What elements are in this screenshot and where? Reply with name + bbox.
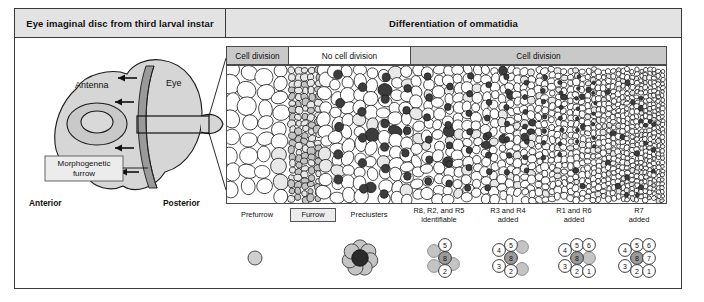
furrow-label-line1: Morphogenetic (58, 159, 111, 168)
cluster-diagram-row: 582 45832 4568321 45687321 (226, 231, 667, 287)
svg-text:2: 2 (635, 268, 639, 275)
stage-label-furrow: Furrow (290, 208, 336, 222)
cell-mosaic-panel (226, 65, 667, 204)
stage-label-text: Preclusters (338, 211, 400, 220)
cluster-r1-r6: 4568321 (554, 233, 604, 283)
stage-label-text: added (544, 216, 604, 225)
header-right-title: Differentiation of ommatidia (389, 18, 518, 29)
svg-text:8: 8 (635, 255, 639, 262)
eye-label: Eye (166, 78, 182, 88)
stage-label-text: identifiable (402, 216, 476, 225)
stage-label-text: added (614, 216, 664, 225)
svg-text:2: 2 (443, 268, 447, 275)
furrow-label-line2: furrow (73, 169, 95, 178)
svg-text:5: 5 (575, 242, 579, 249)
svg-text:1: 1 (647, 268, 651, 275)
svg-text:4: 4 (563, 247, 567, 254)
posterior-label: Posterior (163, 198, 201, 208)
band-label: Cell division (235, 51, 279, 61)
cluster-precluster-rosette (334, 233, 386, 283)
svg-text:1: 1 (587, 268, 591, 275)
figure-panel: Eye imaginal disc from third larval inst… (14, 8, 682, 289)
svg-text:5: 5 (443, 242, 447, 249)
cell-mosaic-drawing (227, 66, 666, 203)
svg-text:2: 2 (575, 268, 579, 275)
stage-label-r3-r4: R3 and R4 added (478, 207, 538, 224)
band-no-cell-division: No cell division (289, 47, 411, 64)
cluster-r7-a: 45687321 (614, 233, 664, 283)
header-left-title: Eye imaginal disc from third larval inst… (26, 18, 213, 29)
stage-label-row: Prefurrow Furrow Preclusters R8, R2, and… (226, 207, 667, 233)
header-right-cell: Differentiation of ommatidia (226, 9, 681, 37)
svg-text:4: 4 (497, 247, 501, 254)
figure-header: Eye imaginal disc from third larval inst… (15, 9, 681, 38)
eye-imaginal-disc-diagram: Antenna Eye Morphogenetic furrow Anterio… (15, 38, 226, 218)
stage-label-r1-r6: R1 and R6 added (544, 207, 604, 224)
stage-label-r8-r2-r5: R8, R2, and R5 identifiable (402, 207, 476, 224)
svg-text:3: 3 (497, 263, 501, 270)
svg-text:8: 8 (575, 255, 579, 262)
svg-text:7: 7 (647, 255, 651, 262)
division-band-strip: Cell division No cell division Cell divi… (226, 46, 667, 65)
optic-stalk (201, 114, 223, 133)
header-left-cell: Eye imaginal disc from third larval inst… (15, 9, 226, 37)
svg-text:2: 2 (509, 268, 513, 275)
stage-label-text: Prefurrow (226, 211, 288, 220)
stage-label-r7: R7 added (614, 207, 664, 224)
antenna-label: Antenna (75, 80, 109, 90)
stage-label-text: Furrow (291, 211, 335, 220)
band-label: No cell division (322, 51, 377, 61)
cluster-r3-r4: 45832 (488, 233, 534, 283)
svg-text:6: 6 (647, 242, 651, 249)
cluster-r8-r2-r5: 582 (422, 233, 468, 283)
svg-text:5: 5 (509, 242, 513, 249)
cluster-prefurrow-single-cell (242, 245, 268, 271)
svg-text:8: 8 (509, 255, 513, 262)
svg-text:4: 4 (623, 247, 627, 254)
svg-text:3: 3 (623, 263, 627, 270)
svg-text:5: 5 (635, 242, 639, 249)
band-label: Cell division (516, 51, 560, 61)
svg-text:3: 3 (563, 263, 567, 270)
stage-label-preclusters: Preclusters (338, 211, 400, 220)
stage-label-prefurrow: Prefurrow (226, 211, 288, 220)
svg-text:8: 8 (443, 255, 447, 262)
antenna-ring-inner (81, 111, 113, 133)
band-cell-division-anterior: Cell division (227, 47, 289, 64)
band-cell-division-posterior: Cell division (411, 47, 666, 64)
stage-label-text: added (478, 216, 538, 225)
svg-text:6: 6 (587, 242, 591, 249)
anterior-label: Anterior (29, 198, 62, 208)
